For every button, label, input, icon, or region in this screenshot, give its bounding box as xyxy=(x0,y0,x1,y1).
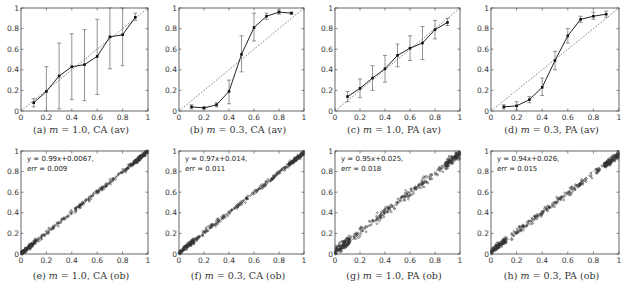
x-tick-label: 0 xyxy=(19,256,24,265)
y-tick-label: 0.2 xyxy=(7,229,19,238)
x-tick-label: 0 xyxy=(333,256,338,265)
x-tick-label: 0.4 xyxy=(223,256,235,265)
data-point xyxy=(215,104,218,107)
chart-f: 00.20.40.60.8100.20.40.60.81y = 0.97x+0.… xyxy=(158,143,314,268)
x-tick-label: 0.2 xyxy=(198,256,210,265)
y-tick-label: 0 xyxy=(328,107,333,116)
y-tick-label: 0.4 xyxy=(7,208,19,217)
fit-error: err = 0.009 xyxy=(27,165,67,173)
data-point xyxy=(515,105,518,108)
y-tick-label: 0 xyxy=(484,107,489,116)
x-tick-label: 0.8 xyxy=(273,113,285,122)
x-tick-label: 0.2 xyxy=(354,113,366,122)
data-point xyxy=(409,47,412,50)
y-tick-label: 0.4 xyxy=(477,208,489,217)
y-tick-label: 1 xyxy=(328,147,333,156)
data-point xyxy=(228,90,231,93)
x-tick-label: 0 xyxy=(489,113,494,122)
y-tick-label: 0.8 xyxy=(7,24,19,33)
x-tick-label: 0 xyxy=(19,113,24,122)
fit-error: err = 0.011 xyxy=(185,165,225,173)
caption-d: (d) m = 0.3, PA (av) xyxy=(470,124,629,135)
x-tick-label: 1 xyxy=(458,113,463,122)
y-tick-label: 0 xyxy=(484,250,489,259)
y-tick-label: 0.4 xyxy=(165,65,177,74)
caption-b: (b) m = 0.3, CA (av) xyxy=(158,124,318,135)
y-tick-label: 0.2 xyxy=(477,86,489,95)
y-tick-label: 0 xyxy=(14,107,19,116)
data-point xyxy=(528,98,531,101)
data-point xyxy=(83,63,86,66)
x-tick-label: 0.4 xyxy=(223,113,235,122)
data-point xyxy=(278,11,281,14)
y-tick-label: 0.2 xyxy=(165,86,177,95)
x-tick-label: 0 xyxy=(489,256,494,265)
x-tick-label: 0 xyxy=(333,113,338,122)
data-point xyxy=(253,26,256,29)
y-tick-label: 0.8 xyxy=(321,24,333,33)
data-point xyxy=(359,87,362,90)
panel-f: 00.20.40.60.8100.20.40.60.81y = 0.97x+0.… xyxy=(158,143,314,295)
chart-d: 00.20.40.60.8100.20.40.60.81 xyxy=(470,0,629,125)
x-tick-label: 0.4 xyxy=(379,113,391,122)
y-tick-label: 0.4 xyxy=(165,208,177,217)
x-tick-label: 0.6 xyxy=(404,113,416,122)
data-point xyxy=(121,33,124,36)
y-tick-label: 0.2 xyxy=(321,86,333,95)
y-tick-label: 1 xyxy=(484,147,489,156)
data-point xyxy=(554,59,557,62)
data-point xyxy=(109,36,112,39)
data-point xyxy=(32,101,35,104)
data-point xyxy=(346,95,349,98)
data-point xyxy=(45,90,48,93)
y-tick-label: 0.8 xyxy=(321,167,333,176)
data-point xyxy=(446,21,449,24)
panel-d: 00.20.40.60.8100.20.40.60.81 (d) m = 0.3… xyxy=(470,0,629,145)
error-bar xyxy=(44,67,48,111)
chart-a: 00.20.40.60.8100.20.40.60.81 xyxy=(0,0,158,125)
fit-equation: y = 0.95x+0.025, xyxy=(341,155,403,163)
data-point xyxy=(265,15,268,18)
x-tick-label: 1 xyxy=(617,256,622,265)
y-tick-label: 1 xyxy=(484,4,489,13)
y-tick-label: 0.6 xyxy=(7,45,19,54)
x-tick-label: 1 xyxy=(302,256,307,265)
y-tick-label: 0 xyxy=(172,107,177,116)
y-tick-label: 1 xyxy=(14,147,19,156)
chart-g: 00.20.40.60.8100.20.40.60.81y = 0.95x+0.… xyxy=(314,143,470,268)
x-tick-label: 1 xyxy=(146,256,151,265)
x-tick-label: 0.6 xyxy=(404,256,416,265)
data-point xyxy=(541,86,544,89)
y-tick-label: 0.2 xyxy=(477,229,489,238)
x-tick-label: 0.6 xyxy=(91,256,103,265)
y-tick-label: 0 xyxy=(172,250,177,259)
x-tick-label: 0.8 xyxy=(429,113,441,122)
data-point xyxy=(567,35,570,38)
chart-c: 00.20.40.60.8100.20.40.60.81 xyxy=(314,0,470,125)
y-tick-label: 1 xyxy=(14,4,19,13)
x-tick-label: 0.4 xyxy=(66,256,78,265)
x-tick-label: 0.8 xyxy=(117,256,129,265)
fit-equation: y = 0.97x+0.014, xyxy=(185,155,247,163)
y-tick-label: 0 xyxy=(328,250,333,259)
data-point xyxy=(58,75,61,78)
data-point xyxy=(396,54,399,57)
fit-equation: y = 0.99x+0.0067, xyxy=(27,155,94,163)
y-tick-label: 0.8 xyxy=(7,167,19,176)
data-point xyxy=(203,107,206,110)
caption-h: (h) m = 0.3, PA (ob) xyxy=(470,270,629,281)
x-tick-label: 0.8 xyxy=(117,113,129,122)
chart-h: 00.20.40.60.8100.20.40.60.81y = 0.94x+0.… xyxy=(470,143,629,268)
x-tick-label: 0.4 xyxy=(536,256,548,265)
y-tick-label: 0.6 xyxy=(477,45,489,54)
fit-error: err = 0.015 xyxy=(497,165,537,173)
data-point xyxy=(71,65,74,68)
caption-c: (c) m = 1.0, PA (av) xyxy=(314,124,474,135)
panel-h: 00.20.40.60.8100.20.40.60.81y = 0.94x+0.… xyxy=(470,143,629,295)
x-tick-label: 0.4 xyxy=(66,113,78,122)
panel-b: 00.20.40.60.8100.20.40.60.81 (b) m = 0.3… xyxy=(158,0,314,145)
y-tick-label: 0.6 xyxy=(165,188,177,197)
data-point xyxy=(605,13,608,16)
x-tick-label: 1 xyxy=(617,113,622,122)
x-tick-label: 0.6 xyxy=(562,113,574,122)
